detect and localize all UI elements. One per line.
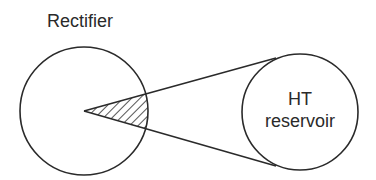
reservoir-label-line1: HT [250,88,350,110]
rectifier-label: Rectifier [47,12,113,30]
rectifier-reservoir-diagram: Rectifier HT reservoir [0,0,376,180]
reservoir-label: HT reservoir [250,88,350,132]
reservoir-label-line2: reservoir [250,110,350,132]
